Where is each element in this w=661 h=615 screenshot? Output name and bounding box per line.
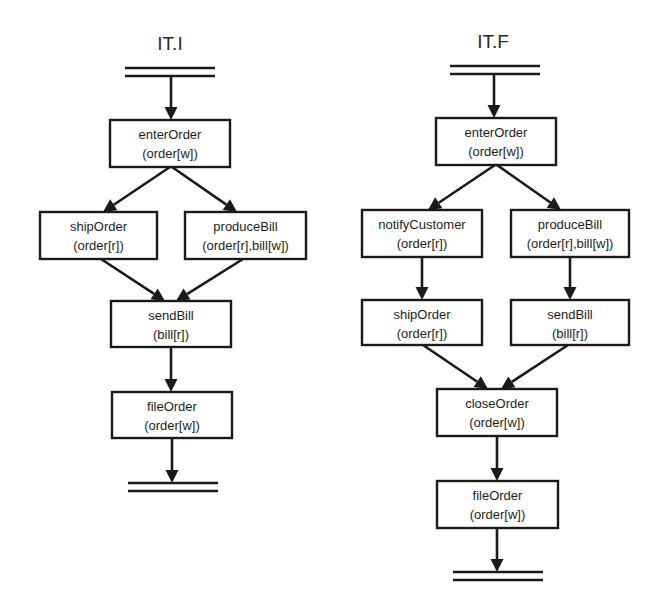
activity-node-sendBill[interactable]: sendBill(bill[r])	[511, 300, 629, 345]
node-name: closeOrder	[465, 396, 529, 411]
flow-arrow	[423, 345, 488, 389]
node-args: (order[w])	[142, 146, 198, 161]
node-args: (order[r],bill[w])	[527, 236, 614, 251]
node-args: (bill[r])	[552, 326, 588, 341]
flow-arrow	[172, 167, 237, 212]
arrowhead-icon	[165, 107, 178, 120]
arrowhead-icon	[488, 105, 501, 118]
arrowhead-icon	[564, 287, 577, 300]
activity-node-notifyCustomer[interactable]: notifyCustomer(order[r])	[362, 210, 482, 257]
activity-node-produceBill[interactable]: produceBill(order[r],bill[w])	[511, 210, 629, 257]
arrowhead-icon	[223, 199, 237, 212]
end-sync-bar	[453, 572, 543, 580]
node-args: (bill[r])	[153, 327, 189, 342]
arrowhead-icon	[428, 197, 442, 210]
node-name: notifyCustomer	[378, 217, 466, 232]
node-name: produceBill	[538, 217, 602, 232]
arrowhead-icon	[501, 376, 515, 389]
node-args: (order[w])	[469, 415, 525, 430]
activity-node-fileOrder[interactable]: fileOrder(order[w])	[437, 481, 558, 528]
node-args: (order[r])	[397, 236, 448, 251]
node-name: shipOrder	[70, 219, 128, 234]
activity-diagram-it-f: IT.F enterOrder(order[w])notifyCustomer(…	[362, 31, 629, 580]
node-args: (order[r])	[397, 326, 448, 341]
flow-arrow	[166, 438, 179, 483]
activity-node-enterOrder[interactable]: enterOrder(order[w])	[436, 118, 556, 165]
flow-arrow	[165, 347, 178, 392]
flow-arrow	[416, 257, 429, 300]
arrowhead-icon	[491, 559, 504, 572]
flow-arrow	[564, 257, 577, 300]
flow-arrow	[101, 259, 165, 301]
activity-diagram-it-i: IT.I enterOrder(order[w])shipOrder(order…	[40, 33, 306, 491]
node-name: enterOrder	[465, 125, 529, 140]
arrowhead-icon	[416, 287, 429, 300]
node-name: sendBill	[148, 308, 194, 323]
flow-arrow	[491, 436, 504, 481]
activity-node-closeOrder[interactable]: closeOrder(order[w])	[437, 389, 557, 436]
diagram-canvas: IT.I enterOrder(order[w])shipOrder(order…	[0, 0, 661, 615]
node-group: enterOrder(order[w])shipOrder(order[r])p…	[40, 120, 306, 438]
flow-arrow	[428, 165, 495, 210]
diagram-title: IT.I	[157, 33, 182, 54]
arrowhead-icon	[491, 468, 504, 481]
node-name: shipOrder	[393, 307, 451, 322]
arrowhead-icon	[151, 288, 165, 301]
arrowhead-icon	[103, 199, 117, 212]
flow-arrow	[497, 165, 561, 210]
activity-node-sendBill[interactable]: sendBill(bill[r])	[111, 301, 231, 347]
flow-arrow	[176, 259, 243, 301]
node-args: (order[r])	[73, 238, 124, 253]
arrowhead-icon	[474, 376, 488, 389]
node-name: fileOrder	[147, 399, 198, 414]
node-name: fileOrder	[473, 488, 524, 503]
node-args: (order[w])	[468, 144, 524, 159]
arrowhead-icon	[165, 379, 178, 392]
arrowhead-icon	[547, 197, 561, 210]
activity-node-produceBill[interactable]: produceBill(order[r],bill[w])	[185, 212, 306, 259]
activity-node-enterOrder[interactable]: enterOrder(order[w])	[110, 120, 230, 167]
flow-arrow	[491, 528, 504, 572]
end-sync-bar	[128, 483, 218, 491]
node-name: enterOrder	[139, 127, 203, 142]
node-args: (order[r],bill[w])	[202, 238, 289, 253]
node-args: (order[w])	[470, 507, 526, 522]
node-group: enterOrder(order[w])notifyCustomer(order…	[362, 118, 629, 528]
diagram-title: IT.F	[477, 31, 509, 52]
arrowhead-icon	[166, 470, 179, 483]
flow-arrow	[488, 74, 501, 118]
activity-node-shipOrder[interactable]: shipOrder(order[r])	[362, 300, 482, 345]
start-sync-bar	[450, 66, 540, 74]
flow-arrow	[165, 76, 178, 120]
start-sync-bar	[125, 68, 215, 76]
node-name: sendBill	[547, 307, 593, 322]
node-name: produceBill	[213, 219, 277, 234]
flow-arrow	[103, 167, 170, 212]
activity-node-shipOrder[interactable]: shipOrder(order[r])	[40, 212, 157, 259]
flow-arrow	[501, 345, 568, 389]
node-args: (order[w])	[144, 418, 200, 433]
activity-node-fileOrder[interactable]: fileOrder(order[w])	[112, 392, 232, 438]
